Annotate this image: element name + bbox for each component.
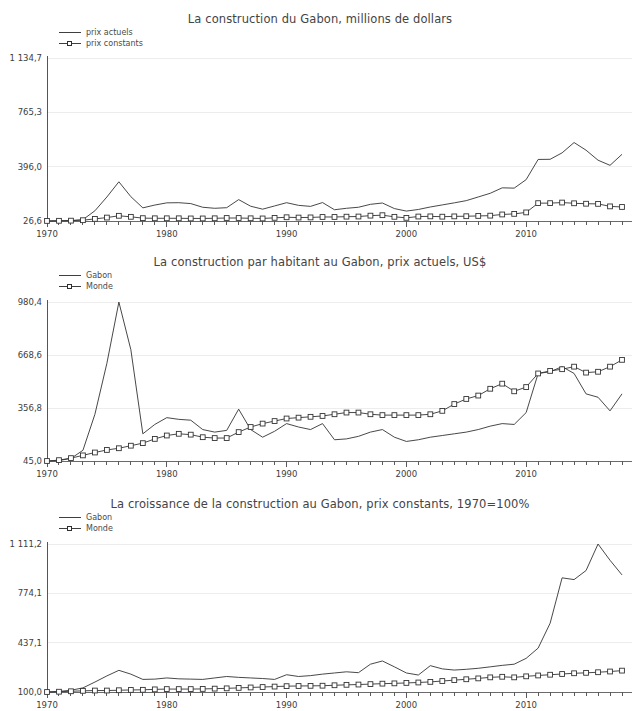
- x-axis-tick-label: 1970: [36, 700, 58, 710]
- legend-item-gabon: Gabon: [58, 512, 113, 523]
- y-axis-tick-label: 668,6: [0, 350, 42, 360]
- legend-line-icon: [58, 512, 82, 523]
- y-axis-tick-label: 26,6: [0, 216, 42, 226]
- chart-2-title: La construction par habitant au Gabon, p…: [0, 255, 640, 269]
- legend-square-marker-icon: [58, 523, 82, 534]
- y-axis-tick-label: 1 134,7: [0, 53, 42, 63]
- legend-item-monde: Monde: [58, 523, 113, 534]
- legend-square-marker-icon: [58, 281, 82, 292]
- y-axis-tick-label: 100,0: [0, 687, 42, 697]
- chart-1-plot: [47, 58, 622, 221]
- y-axis-tick-label: 437,1: [0, 638, 42, 648]
- legend-item-gabon: Gabon: [58, 270, 113, 281]
- chart-construction-millions: La construction du Gabon, millions de do…: [0, 0, 640, 250]
- legend-item-monde: Monde: [58, 281, 113, 292]
- chart-2-legend: Gabon Monde: [58, 270, 113, 292]
- chart-1-legend: prix actuels prix constants: [58, 27, 143, 49]
- x-axis-tick-label: 1980: [156, 229, 178, 239]
- legend-label: Gabon: [86, 270, 112, 281]
- x-axis-tick-label: 1970: [36, 229, 58, 239]
- x-axis-tick-label: 1990: [276, 469, 298, 479]
- y-axis-tick-label: 774,1: [0, 588, 42, 598]
- legend-label: Monde: [86, 281, 113, 292]
- chart-construction-per-capita: La construction par habitant au Gabon, p…: [0, 250, 640, 490]
- x-axis-tick-label: 2010: [515, 469, 537, 479]
- y-axis-tick-label: 45,0: [0, 456, 42, 466]
- chart-3-title: La croissance de la construction au Gabo…: [0, 497, 640, 511]
- legend-item-prix-constants: prix constants: [58, 38, 143, 49]
- x-axis-tick-label: 2000: [396, 700, 418, 710]
- x-axis-tick-label: 2010: [515, 229, 537, 239]
- x-axis-tick-label: 2010: [515, 700, 537, 710]
- legend-line-icon: [58, 270, 82, 281]
- y-axis-tick-label: 765,3: [0, 107, 42, 117]
- legend-label: prix constants: [86, 38, 143, 49]
- x-axis-tick-label: 2000: [396, 229, 418, 239]
- chart-construction-growth: La croissance de la construction au Gabo…: [0, 490, 640, 711]
- legend-item-prix-actuels: prix actuels: [58, 27, 143, 38]
- chart-2-plot: [47, 302, 622, 461]
- y-axis-tick-label: 396,0: [0, 162, 42, 172]
- chart-3-legend: Gabon Monde: [58, 512, 113, 534]
- legend-label: prix actuels: [86, 27, 133, 38]
- chart-3-plot: [47, 544, 622, 692]
- legend-label: Monde: [86, 523, 113, 534]
- chart-1-title: La construction du Gabon, millions de do…: [0, 12, 640, 26]
- y-axis-tick-label: 1 111,2: [0, 539, 42, 549]
- y-axis-tick-label: 980,4: [0, 297, 42, 307]
- legend-label: Gabon: [86, 512, 112, 523]
- x-axis-tick-label: 1990: [276, 700, 298, 710]
- x-axis-tick-label: 1980: [156, 700, 178, 710]
- x-axis-tick-label: 2000: [396, 469, 418, 479]
- y-axis-tick-label: 356,8: [0, 403, 42, 413]
- x-axis-tick-label: 1980: [156, 469, 178, 479]
- legend-line-icon: [58, 27, 82, 38]
- x-axis-tick-label: 1970: [36, 469, 58, 479]
- legend-square-marker-icon: [58, 38, 82, 49]
- x-axis-tick-label: 1990: [276, 229, 298, 239]
